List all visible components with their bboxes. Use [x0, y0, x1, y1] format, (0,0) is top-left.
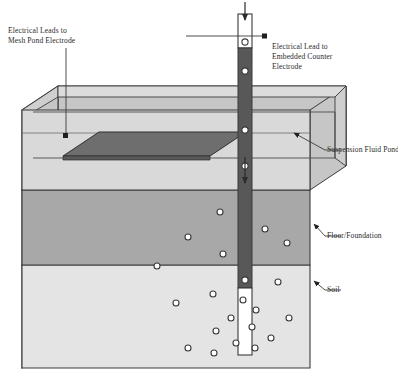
leader-line-floor — [314, 224, 325, 236]
particle — [210, 291, 216, 297]
leader-line-soil — [314, 281, 325, 290]
particle — [217, 209, 223, 215]
label-floor-foundation: Floor/Foundation — [327, 231, 382, 241]
soil-front-face — [22, 265, 310, 368]
particle — [286, 315, 292, 321]
particle — [220, 251, 226, 257]
diagram-figure: Electrical Leads to Mesh Pond Electrode … — [0, 0, 398, 383]
particle — [211, 350, 217, 356]
particle — [240, 297, 246, 303]
label-embedded-counter-electrode: Electrical Lead to Embedded Counter Elec… — [272, 42, 332, 73]
particle — [252, 345, 258, 351]
diagram-canvas — [0, 0, 398, 383]
rod-marker — [242, 277, 248, 283]
particle — [262, 226, 268, 232]
label-counter-line2: Embedded Counter — [272, 52, 332, 62]
mesh-electrode-edge — [63, 156, 210, 160]
particle — [154, 263, 160, 269]
particle — [173, 300, 179, 306]
particle — [233, 340, 239, 346]
rod-marker — [242, 127, 248, 133]
particle — [284, 240, 290, 246]
particle — [253, 307, 259, 313]
leader-dot-mesh-electrode — [63, 133, 68, 138]
particle — [249, 324, 255, 330]
leader-dot-counter-electrode — [262, 34, 267, 39]
rod-marker — [242, 39, 248, 45]
particle — [268, 335, 274, 341]
particle — [213, 328, 219, 334]
label-mesh-line1: Electrical Leads to — [8, 26, 75, 36]
particle — [275, 279, 281, 285]
particle — [185, 234, 191, 240]
label-soil: Soil — [327, 285, 340, 295]
label-mesh-line2: Mesh Pond Electrode — [8, 36, 75, 46]
particle — [228, 315, 234, 321]
pond-rim-back — [58, 86, 346, 97]
label-counter-line1: Electrical Lead to — [272, 42, 332, 52]
particle — [185, 345, 191, 351]
label-mesh-pond-electrode: Electrical Leads to Mesh Pond Electrode — [8, 26, 75, 46]
label-counter-line3: Electrode — [272, 62, 332, 72]
rod-marker — [242, 68, 248, 74]
label-suspension-fluid-pond: Suspension Fluid Pond — [327, 145, 398, 155]
